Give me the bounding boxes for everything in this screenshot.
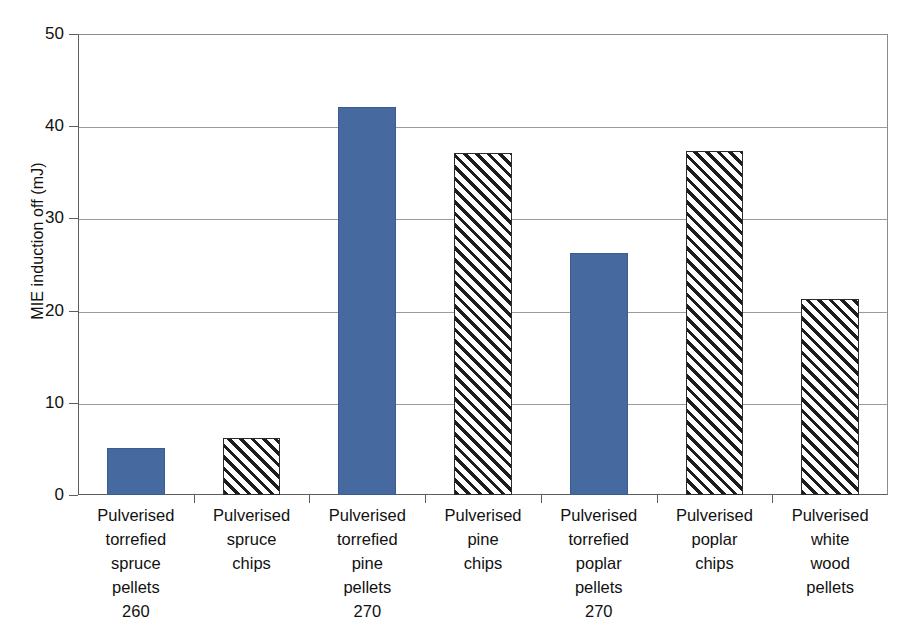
y-axis-tick-label: 20 xyxy=(4,301,64,321)
x-axis-category-label: Pulverisedsprucechips xyxy=(194,503,310,643)
x-axis-label-line: Pulverised xyxy=(543,503,655,527)
x-axis-label-line: Pulverised xyxy=(659,503,771,527)
y-axis-tick-mark xyxy=(69,311,78,312)
x-axis-tick-mark xyxy=(309,495,310,503)
y-axis-tick-mark xyxy=(69,403,78,404)
y-axis-title: MIE induction off (mJ) xyxy=(29,111,47,371)
x-axis-tick-mark xyxy=(194,495,195,503)
y-axis-tick-label: 0 xyxy=(4,485,64,505)
y-axis-tick-mark xyxy=(69,126,78,127)
bar xyxy=(686,151,744,495)
x-axis-label-line: white xyxy=(774,527,886,551)
bar xyxy=(454,153,512,495)
y-axis-tick-label: 40 xyxy=(4,116,64,136)
x-axis-label-line: torrefied xyxy=(80,527,192,551)
x-axis-label-line: 270 xyxy=(543,599,655,623)
x-axis-label-line: chips xyxy=(427,551,539,575)
x-axis-label-line: Pulverised xyxy=(427,503,539,527)
x-axis-label-line: poplar xyxy=(659,527,771,551)
x-axis-category-label: Pulverisedwhitewoodpellets xyxy=(772,503,888,643)
y-axis-tick-label: 50 xyxy=(4,24,64,44)
x-axis-category-label: Pulverisedtorrefiedpinepellets270 xyxy=(309,503,425,643)
y-axis-tick-label: 10 xyxy=(4,393,64,413)
x-axis-category-label: Pulverisedtorrefiedsprucepellets260 xyxy=(78,503,194,643)
x-axis-label-line: poplar xyxy=(543,551,655,575)
x-axis-tick-mark xyxy=(772,495,773,503)
x-axis-label-line: pine xyxy=(427,527,539,551)
x-axis-label-line: spruce xyxy=(80,551,192,575)
x-axis-label-line: chips xyxy=(659,551,771,575)
bar xyxy=(107,448,165,495)
x-axis-category-label: Pulverisedtorrefiedpoplarpellets270 xyxy=(541,503,657,643)
x-axis-label-line: Pulverised xyxy=(196,503,308,527)
bar xyxy=(570,253,628,495)
x-axis-label-line: pellets xyxy=(311,575,423,599)
x-axis-label-line: Pulverised xyxy=(80,503,192,527)
x-axis-label-line: pine xyxy=(311,551,423,575)
x-axis-label-line: Pulverised xyxy=(774,503,886,527)
x-axis-tick-mark xyxy=(657,495,658,503)
bars-layer xyxy=(78,34,888,495)
x-axis-label-line: chips xyxy=(196,551,308,575)
x-axis-category-label: Pulverisedpinechips xyxy=(425,503,541,643)
x-axis-label-line: pellets xyxy=(774,575,886,599)
x-axis-label-line: torrefied xyxy=(543,527,655,551)
x-axis-tick-mark xyxy=(541,495,542,503)
x-axis-label-line: 260 xyxy=(80,599,192,623)
x-axis-label-line: pellets xyxy=(543,575,655,599)
x-axis-label-line: 270 xyxy=(311,599,423,623)
bar xyxy=(338,107,396,495)
bar-chart: MIE induction off (mJ) 50403020100 Pulve… xyxy=(0,0,905,644)
x-axis-labels: Pulverisedtorrefiedsprucepellets260Pulve… xyxy=(78,503,888,643)
x-axis-label-line: torrefied xyxy=(311,527,423,551)
y-axis-tick-mark xyxy=(69,218,78,219)
y-axis-tick-label: 30 xyxy=(4,208,64,228)
x-axis-tick-mark xyxy=(425,495,426,503)
x-axis-label-line: pellets xyxy=(80,575,192,599)
x-axis-label-line: wood xyxy=(774,551,886,575)
bar xyxy=(223,438,281,495)
y-axis-tick-mark xyxy=(69,495,78,496)
y-axis-tick-mark xyxy=(69,34,78,35)
x-axis-label-line: spruce xyxy=(196,527,308,551)
x-axis-category-label: Pulverisedpoplarchips xyxy=(657,503,773,643)
bar xyxy=(801,299,859,495)
x-axis-label-line: Pulverised xyxy=(311,503,423,527)
